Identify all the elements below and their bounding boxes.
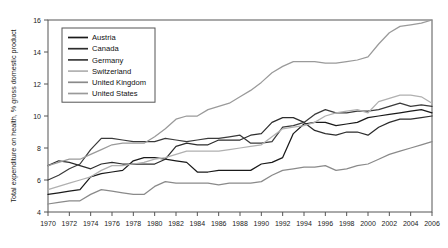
x-axis-tick-label: 1980: [147, 220, 163, 227]
line-chart: 4681012141619701972197419761978198019821…: [0, 0, 448, 248]
y-axis-tick-label: 10: [33, 113, 41, 120]
y-axis-tick-label: 6: [37, 177, 41, 184]
series-line-switzerland: [48, 95, 432, 189]
x-axis-tick-label: 1990: [254, 220, 270, 227]
x-axis-tick-label: 1986: [211, 220, 227, 227]
legend-label-united-kingdom: United Kingdom: [92, 78, 146, 87]
x-axis-tick-label: 1972: [62, 220, 78, 227]
x-axis-tick-label: 1978: [126, 220, 142, 227]
x-axis-tick-label: 1998: [339, 220, 355, 227]
series-line-austria: [48, 110, 432, 195]
x-axis-tick-label: 2000: [360, 220, 376, 227]
y-axis-tick-label: 16: [33, 17, 41, 24]
legend-label-germany: Germany: [92, 56, 123, 65]
x-axis-tick-label: 2004: [403, 220, 419, 227]
x-axis-tick-label: 1988: [232, 220, 248, 227]
y-axis-title: Total expenditure on health, % gross dom…: [9, 29, 18, 202]
y-axis-tick-label: 14: [33, 49, 41, 56]
y-axis-tick-label: 8: [37, 145, 41, 152]
y-axis-tick-label: 12: [33, 81, 41, 88]
x-axis-tick-label: 1974: [83, 220, 99, 227]
x-axis-tick-label: 1970: [40, 220, 56, 227]
x-axis-tick-label: 2006: [424, 220, 440, 227]
x-axis-tick-label: 1982: [168, 220, 184, 227]
x-axis-tick-label: 1994: [296, 220, 312, 227]
x-axis-tick-label: 1976: [104, 220, 120, 227]
x-axis-tick-label: 2002: [382, 220, 398, 227]
legend-label-united-states: United States: [92, 89, 138, 98]
x-axis-tick-label: 1996: [318, 220, 334, 227]
legend-label-canada: Canada: [92, 44, 119, 53]
x-axis-tick-label: 1984: [190, 220, 206, 227]
legend-label-austria: Austria: [92, 33, 116, 42]
chart-container: 4681012141619701972197419761978198019821…: [0, 0, 448, 248]
y-axis-tick-label: 4: [37, 209, 41, 216]
legend-label-switzerland: Switzerland: [92, 67, 131, 76]
x-axis-tick-label: 1992: [275, 220, 291, 227]
